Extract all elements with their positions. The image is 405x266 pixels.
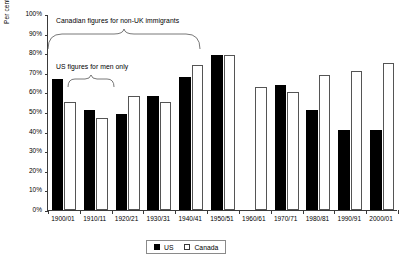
- x-axis-tick-mark: [239, 210, 240, 214]
- chart-legend: US Canada: [146, 240, 226, 254]
- bar-us-2000-01: [370, 130, 382, 210]
- y-axis-tick-label: 60%: [29, 88, 42, 95]
- bar-canada-1990-91: [351, 71, 363, 210]
- x-axis-label-2000-01: 2000/01: [365, 215, 397, 222]
- x-axis-tick-mark: [80, 210, 81, 214]
- legend-item-us: US: [154, 244, 173, 251]
- x-axis-label-1920-21: 1920/21: [111, 215, 143, 222]
- y-axis-title: Per cent naturalised: [0, 0, 14, 64]
- x-axis-label-1990-91: 1990/91: [333, 215, 365, 222]
- bar-us-1950-51: [211, 55, 223, 210]
- y-axis-tick-label: 10%: [29, 186, 42, 193]
- x-axis-label-1980-81: 1980/81: [302, 215, 334, 222]
- legend-item-canada: Canada: [184, 244, 218, 251]
- brace-us-icon: [66, 74, 116, 88]
- y-axis-tick-label: 70%: [29, 69, 42, 76]
- y-axis-tick-mark: [45, 133, 48, 134]
- bar-canada-1920-21: [128, 96, 140, 210]
- bar-us-1990-91: [338, 130, 350, 210]
- x-axis-tick-mark: [175, 210, 176, 214]
- x-axis-tick-mark: [366, 210, 367, 214]
- x-axis-label-1900-01: 1900/01: [47, 215, 79, 222]
- x-axis-label-1960-61: 1960/61: [238, 215, 270, 222]
- y-axis-tick-label: 50%: [29, 108, 42, 115]
- y-axis-tick-label: 20%: [29, 167, 42, 174]
- bar-chart-figure: Per cent naturalised 100%90%80%70%60%50%…: [0, 0, 405, 266]
- x-axis-tick-mark: [303, 210, 304, 214]
- y-axis-tick-label: 90%: [29, 30, 42, 37]
- x-axis-tick-mark: [207, 210, 208, 214]
- bar-us-1920-21: [116, 114, 128, 210]
- y-axis-tick-label: 40%: [29, 128, 42, 135]
- bar-canada-1960-61: [255, 87, 267, 210]
- bar-us-1910-11: [84, 110, 96, 210]
- bar-canada-1950-51: [224, 55, 236, 210]
- filled-square-icon: [154, 244, 160, 250]
- bar-canada-2000-01: [383, 63, 395, 210]
- x-axis-label-1910-11: 1910/11: [79, 215, 111, 222]
- y-axis-tick-label: 30%: [29, 147, 42, 154]
- legend-label-canada: Canada: [194, 244, 218, 251]
- x-axis-label-1930-31: 1930/31: [142, 215, 174, 222]
- annotation-us-label: US figures for men only: [56, 63, 128, 70]
- bar-canada-1980-81: [319, 75, 331, 210]
- y-axis-tick-mark: [45, 152, 48, 153]
- annotation-canada-label: Canadian figures for non-UK immigrants: [56, 17, 179, 24]
- x-axis-tick-mark: [271, 210, 272, 214]
- x-axis-tick-mark: [334, 210, 335, 214]
- x-axis-label-1940-41: 1940/41: [174, 215, 206, 222]
- x-axis-label-1970-71: 1970/71: [270, 215, 302, 222]
- bar-us-1940-41: [179, 77, 191, 210]
- bar-us-1930-31: [147, 96, 159, 210]
- y-axis-tick-mark: [45, 54, 48, 55]
- outlined-square-icon: [184, 244, 190, 250]
- y-axis-tick-label: 0%: [33, 206, 42, 213]
- bar-us-1970-71: [275, 85, 287, 210]
- bar-canada-1910-11: [96, 118, 108, 210]
- brace-canada-icon: [46, 28, 202, 50]
- bar-canada-1900-01: [64, 102, 76, 210]
- x-axis-label-1950-51: 1950/51: [206, 215, 238, 222]
- y-axis-tick-label: 100%: [25, 10, 42, 17]
- y-axis-tick-mark: [45, 113, 48, 114]
- y-axis-tick-mark: [45, 191, 48, 192]
- y-axis-tick-mark: [45, 211, 48, 212]
- bar-canada-1940-41: [192, 65, 204, 210]
- legend-label-us: US: [164, 244, 173, 251]
- x-axis-tick-mark: [143, 210, 144, 214]
- y-axis-tick-mark: [45, 172, 48, 173]
- y-axis-tick-mark: [45, 74, 48, 75]
- x-axis-tick-mark: [112, 210, 113, 214]
- y-axis-tick-mark: [45, 15, 48, 16]
- bar-us-1900-01: [52, 79, 64, 210]
- x-axis-tick-mark: [48, 210, 49, 214]
- bar-canada-1930-31: [160, 102, 172, 210]
- bar-canada-1970-71: [287, 92, 299, 210]
- y-axis-tick-label: 80%: [29, 49, 42, 56]
- y-axis-tick-mark: [45, 93, 48, 94]
- x-axis-tick-mark: [398, 210, 399, 214]
- bar-us-1980-81: [306, 110, 318, 210]
